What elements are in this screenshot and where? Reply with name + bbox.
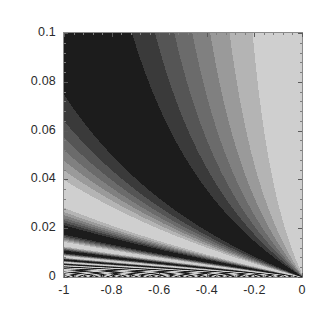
y-axis-minor-tick (64, 160, 66, 161)
y-axis-tick-right (298, 82, 302, 83)
y-axis-minor-tick (64, 209, 66, 210)
y-axis-minor-tick-right (300, 150, 302, 151)
x-axis-minor-tick (264, 275, 265, 277)
y-axis-minor-tick (64, 43, 66, 44)
y-axis-tick-label: 0.1 (38, 26, 56, 38)
y-axis-tick (64, 131, 68, 132)
x-axis-minor-tick (102, 275, 103, 277)
y-axis-minor-tick (64, 150, 66, 151)
x-axis-minor-tick (197, 275, 198, 277)
x-axis-tick-top (112, 33, 113, 37)
x-axis-minor-tick-top (140, 33, 141, 35)
y-axis-minor-tick-right (300, 101, 302, 102)
y-axis-tick-right (298, 228, 302, 229)
y-axis-minor-tick-right (300, 199, 302, 200)
x-axis-minor-tick (273, 275, 274, 277)
y-axis-tick-right (298, 277, 302, 278)
y-axis-minor-tick-right (300, 170, 302, 171)
y-axis-tick (64, 277, 68, 278)
x-axis-minor-tick (150, 275, 151, 277)
y-axis-tick (64, 228, 68, 229)
x-axis-tick-top (302, 33, 303, 37)
x-axis-minor-tick-top (83, 33, 84, 35)
x-axis-minor-tick-top (169, 33, 170, 35)
x-axis-minor-tick (235, 275, 236, 277)
x-axis-tick (207, 273, 208, 277)
x-axis-minor-tick (245, 275, 246, 277)
y-axis-minor-tick-right (300, 267, 302, 268)
x-axis-minor-tick (169, 275, 170, 277)
x-axis-tick (254, 273, 255, 277)
contour-density-canvas (64, 33, 302, 277)
y-axis-minor-tick-right (300, 121, 302, 122)
y-axis-minor-tick-right (300, 72, 302, 73)
y-axis-minor-tick-right (300, 257, 302, 258)
x-axis-minor-tick (140, 275, 141, 277)
x-axis-tick-top (207, 33, 208, 37)
x-axis-minor-tick-top (245, 33, 246, 35)
x-axis-tick (159, 273, 160, 277)
x-axis-minor-tick-top (102, 33, 103, 35)
x-axis-tick (302, 273, 303, 277)
x-axis-tick-top (254, 33, 255, 37)
y-axis-minor-tick-right (300, 238, 302, 239)
y-axis-minor-tick (64, 140, 66, 141)
y-axis-minor-tick (64, 248, 66, 249)
x-axis-minor-tick-top (264, 33, 265, 35)
x-axis-minor-tick-top (292, 33, 293, 35)
x-axis-minor-tick-top (131, 33, 132, 35)
x-axis-minor-tick (131, 275, 132, 277)
y-axis-minor-tick-right (300, 189, 302, 190)
y-axis-minor-tick (64, 267, 66, 268)
x-axis-minor-tick (83, 275, 84, 277)
x-axis-tick-top (159, 33, 160, 37)
y-axis-minor-tick (64, 238, 66, 239)
y-axis-tick (64, 179, 68, 180)
x-axis-minor-tick (121, 275, 122, 277)
x-axis-tick-label: 0 (272, 284, 319, 296)
x-axis-minor-tick-top (74, 33, 75, 35)
x-axis-minor-tick (74, 275, 75, 277)
x-axis-minor-tick-top (216, 33, 217, 35)
x-axis-minor-tick-top (283, 33, 284, 35)
x-axis-minor-tick (292, 275, 293, 277)
y-axis-minor-tick (64, 62, 66, 63)
y-axis-minor-tick (64, 189, 66, 190)
x-axis-minor-tick-top (178, 33, 179, 35)
y-axis-minor-tick (64, 111, 66, 112)
x-axis-minor-tick (283, 275, 284, 277)
x-axis-minor-tick-top (235, 33, 236, 35)
x-axis-tick-top (64, 33, 65, 37)
x-axis-minor-tick-top (150, 33, 151, 35)
y-axis-minor-tick (64, 218, 66, 219)
y-axis-tick-label: 0.06 (31, 124, 56, 136)
y-axis-tick-right (298, 131, 302, 132)
y-axis-tick-right (298, 179, 302, 180)
x-axis-tick (64, 273, 65, 277)
x-axis-minor-tick-top (188, 33, 189, 35)
y-axis-minor-tick-right (300, 43, 302, 44)
y-axis-minor-tick-right (300, 92, 302, 93)
y-axis-minor-tick (64, 170, 66, 171)
y-axis-tick-label: 0.08 (31, 75, 56, 87)
y-axis-tick-label: 0 (49, 270, 56, 282)
y-axis-minor-tick-right (300, 248, 302, 249)
x-axis-minor-tick-top (273, 33, 274, 35)
x-axis-minor-tick (178, 275, 179, 277)
y-axis-tick-label: 0.04 (31, 172, 56, 184)
x-axis-minor-tick-top (93, 33, 94, 35)
x-axis-minor-tick (188, 275, 189, 277)
x-axis-minor-tick-top (197, 33, 198, 35)
contour-plot-figure: 00.020.040.060.080.1 -1-0.8-0.6-0.4-0.20 (0, 0, 319, 311)
y-axis-minor-tick (64, 72, 66, 73)
x-axis-minor-tick (226, 275, 227, 277)
y-axis-minor-tick (64, 257, 66, 258)
y-axis-minor-tick-right (300, 140, 302, 141)
plot-frame (63, 32, 303, 278)
y-axis-minor-tick-right (300, 218, 302, 219)
y-axis-minor-tick (64, 101, 66, 102)
x-axis-minor-tick-top (226, 33, 227, 35)
y-axis-tick-label: 0.02 (31, 221, 56, 233)
y-axis-minor-tick (64, 92, 66, 93)
y-axis-minor-tick-right (300, 111, 302, 112)
